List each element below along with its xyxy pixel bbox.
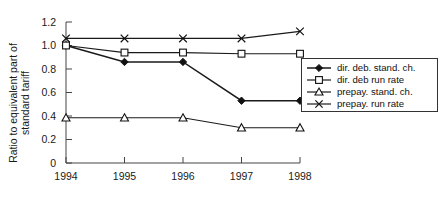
legend: dir. deb. stand. ch. dir. deb run rate p… (302, 59, 438, 112)
series-layer (62, 28, 304, 131)
open-square-icon (316, 77, 323, 84)
series-prepay-stand-ch (62, 114, 304, 131)
y-axis-tick-labels: 1.2 1.0 0.8 0.6 0.4 0.2 0 (41, 16, 56, 169)
legend-label: dir. deb run rate (337, 74, 404, 85)
x-tick-label: 1995 (113, 170, 137, 182)
y-axis-title-line2: standard tariff (19, 71, 31, 135)
x-axis-tick-labels: 1994 1995 1996 1997 1998 (54, 170, 312, 182)
x-tick-label: 1996 (171, 170, 195, 182)
filled-diamond-marker (121, 58, 128, 65)
y-tick-label: 0 (50, 157, 56, 169)
x-tick-label: 1998 (288, 170, 312, 182)
open-square-marker (63, 42, 70, 49)
open-square-marker (297, 50, 304, 57)
y-tick-label: 1.2 (41, 16, 56, 28)
line-chart: Ratio to equivalent part of standard tar… (0, 0, 442, 197)
series-path (66, 31, 300, 38)
x-tick-label: 1994 (54, 170, 78, 182)
y-tick-label: 0.6 (41, 86, 56, 98)
y-tick-label: 0.4 (41, 110, 56, 122)
open-square-marker (180, 49, 187, 56)
legend-label: prepay. stand. ch. (337, 86, 413, 97)
open-square-marker (238, 50, 245, 57)
legend-label: prepay. run rate (337, 98, 404, 109)
legend-entry-dir-deb-run-rate[interactable]: dir. deb run rate (307, 74, 404, 85)
y-axis-title: Ratio to equivalent part of standard tar… (7, 43, 31, 163)
y-tick-label: 0.8 (41, 63, 56, 75)
legend-label: dir. deb. stand. ch. (337, 62, 415, 73)
axes (66, 22, 300, 163)
y-tick-label: 1.0 (41, 39, 56, 51)
x-tick-label: 1997 (230, 170, 254, 182)
open-square-marker (121, 49, 128, 56)
y-tick-label: 0.2 (41, 133, 56, 145)
series-prepay-run-rate (62, 28, 304, 43)
chart-container: Ratio to equivalent part of standard tar… (0, 0, 442, 197)
y-axis-title-line1: Ratio to equivalent part of (7, 43, 19, 163)
